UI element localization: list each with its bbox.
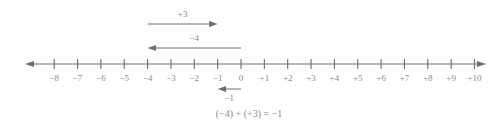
tick-label: −2: [190, 73, 200, 83]
tick-label: −8: [49, 73, 59, 83]
tick-label: −6: [96, 73, 106, 83]
tick-label: +8: [423, 73, 433, 83]
vector-plus-3-arrowhead: [209, 21, 218, 27]
tick-label: +6: [376, 73, 386, 83]
tick-label: −1: [213, 73, 223, 83]
vector-plus-3-label: +3: [178, 9, 188, 19]
vector-minus-4-label: −4: [190, 33, 200, 43]
tick-label: +4: [330, 73, 340, 83]
axis-arrowhead-left: [25, 61, 34, 67]
axis-arrowhead-right: [477, 61, 486, 67]
vector-minus-1-arrowhead: [218, 86, 227, 92]
tick-label: +9: [446, 73, 456, 83]
tick-label: −4: [143, 73, 153, 83]
tick-label: +5: [353, 73, 363, 83]
tick-label: +10: [467, 73, 481, 83]
tick-label: −3: [166, 73, 176, 83]
vector-minus-1-label: −1: [225, 93, 235, 103]
tick-label: −5: [119, 73, 129, 83]
tick-label: 0: [239, 73, 244, 83]
number-line-figure: −8−7−6−5−4−3−2−10+1+2+3+4+5+6+7+8+9+10 +…: [0, 0, 503, 129]
tick-label: +2: [283, 73, 293, 83]
equation-text: (−4) + (+3) = −1: [216, 108, 283, 119]
tick-label: +1: [260, 73, 270, 83]
tick-label: −7: [73, 73, 83, 83]
axis-group: [25, 61, 486, 67]
tick-label: +3: [306, 73, 316, 83]
tick-label: +7: [400, 73, 410, 83]
vector-minus-4-arrowhead: [148, 45, 157, 51]
